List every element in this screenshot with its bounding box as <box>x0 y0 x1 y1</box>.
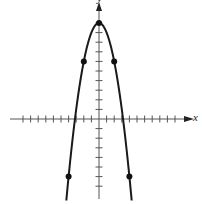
x-axis <box>10 116 194 123</box>
data-point <box>126 174 132 180</box>
y-axis <box>96 2 103 199</box>
data-point <box>66 174 72 180</box>
y-axis-label: y <box>97 0 102 4</box>
data-point <box>111 58 117 64</box>
parabola-plot <box>0 0 202 204</box>
x-axis-label: x <box>193 111 198 123</box>
data-point <box>81 58 87 64</box>
data-point <box>96 20 102 26</box>
